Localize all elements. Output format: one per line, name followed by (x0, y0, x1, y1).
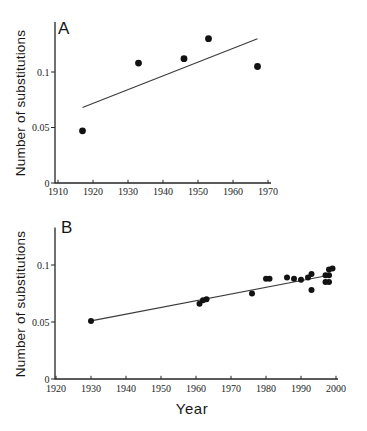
data-point (135, 60, 142, 67)
x-tick-label: 1990 (291, 383, 311, 394)
panel-label-b: B (61, 218, 72, 237)
y-axis-title-b: Number of substitutions (13, 231, 28, 377)
x-tick-label: 1950 (151, 383, 171, 394)
data-point (284, 275, 290, 281)
scatter-figure-svg: 191019201930194019501960197000.050.1ANum… (0, 0, 367, 431)
data-point (254, 63, 261, 70)
y-axis-title-a: Number of substitutions (13, 30, 28, 176)
x-tick-label: 2000 (326, 383, 346, 394)
data-point (181, 55, 188, 62)
x-axis-title: Year (176, 400, 208, 417)
data-point (249, 291, 255, 297)
x-tick-label: 1930 (81, 383, 101, 394)
axes-b (55, 227, 338, 379)
data-point (205, 35, 212, 42)
y-tick-label: 0.05 (32, 317, 50, 328)
x-tick-label: 1940 (116, 383, 136, 394)
trend-line-a (83, 39, 258, 108)
data-point (79, 127, 86, 134)
data-point (298, 277, 304, 283)
x-tick-label: 1940 (153, 186, 173, 197)
data-point (291, 276, 297, 282)
x-tick-label: 1920 (46, 383, 66, 394)
x-tick-label: 1920 (83, 186, 103, 197)
data-point (330, 265, 336, 271)
x-tick-label: 1960 (223, 186, 243, 197)
two-panel-scatter-figure: 191019201930194019501960197000.050.1ANum… (0, 0, 367, 431)
panel-a: 191019201930194019501960197000.050.1ANum… (13, 19, 278, 197)
x-tick-label: 1910 (48, 186, 68, 197)
x-tick-label: 1970 (258, 186, 278, 197)
y-tick-label: 0 (45, 178, 50, 189)
panel-b: 19201930194019501960197019801990200000.0… (13, 218, 346, 417)
x-tick-label: 1980 (256, 383, 276, 394)
data-point (326, 279, 332, 285)
x-tick-label: 1960 (186, 383, 206, 394)
data-point (267, 276, 273, 282)
y-tick-label: 0.05 (32, 122, 50, 133)
x-tick-label: 1930 (118, 186, 138, 197)
data-point (326, 272, 332, 278)
y-tick-label: 0 (45, 374, 50, 385)
y-tick-label: 0.1 (37, 260, 50, 271)
data-point (204, 296, 210, 302)
trend-line-b (91, 275, 329, 321)
data-point (88, 318, 94, 324)
panel-label-a: A (58, 19, 70, 38)
y-tick-label: 0.1 (37, 67, 50, 78)
data-point (309, 287, 315, 293)
data-point (309, 271, 315, 277)
x-tick-label: 1970 (221, 383, 241, 394)
x-tick-label: 1950 (188, 186, 208, 197)
